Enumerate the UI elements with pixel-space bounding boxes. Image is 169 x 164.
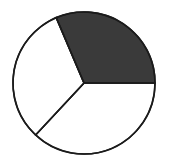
pie-chart-svg <box>0 0 169 164</box>
pie-chart-figure <box>0 0 169 164</box>
